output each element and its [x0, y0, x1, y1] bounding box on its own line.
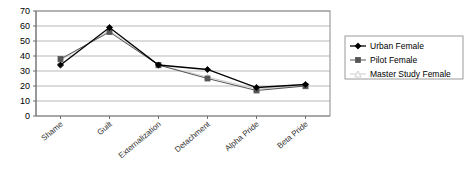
data-point-marker — [205, 76, 210, 81]
x-tick-label: Guilt — [95, 119, 114, 137]
legend-label: Urban Female — [370, 41, 424, 51]
y-tick-label: 60 — [20, 21, 30, 31]
chart-canvas: 010203040506070 ShameGuiltExternalizatio… — [0, 0, 467, 173]
plot-area-border — [36, 11, 330, 116]
series-master-study-female — [58, 28, 309, 93]
series-line — [61, 28, 306, 88]
y-tick-label: 70 — [20, 6, 30, 16]
legend-label: Master Study Female — [370, 69, 451, 79]
x-axis: ShameGuiltExternalizationDetachmentAlpha… — [40, 116, 311, 160]
line-chart: 010203040506070 ShameGuiltExternalizatio… — [0, 0, 467, 173]
gridlines — [36, 11, 330, 116]
series-urban-female — [57, 24, 308, 90]
chart-legend: Urban FemalePilot FemaleMaster Study Fem… — [345, 36, 463, 79]
y-tick-label: 0 — [25, 111, 30, 121]
y-tick-label: 50 — [20, 36, 30, 46]
x-tick-label: Alpha Pride — [223, 119, 261, 153]
y-tick-label: 10 — [20, 96, 30, 106]
y-axis: 010203040506070 — [20, 6, 36, 121]
data-point-marker — [356, 58, 361, 63]
x-tick-label: Beta Pride — [275, 119, 310, 150]
x-tick-label: Externalization — [117, 120, 163, 161]
y-tick-label: 20 — [20, 81, 30, 91]
y-tick-label: 30 — [20, 66, 30, 76]
y-tick-label: 40 — [20, 51, 30, 61]
plot-frame — [36, 11, 330, 116]
data-series-group — [57, 24, 308, 93]
legend-label: Pilot Female — [370, 55, 418, 65]
x-tick-label: Detachment — [173, 119, 212, 154]
data-point-marker — [58, 57, 63, 62]
data-point-marker — [204, 66, 210, 72]
x-tick-label: Shame — [40, 119, 66, 143]
